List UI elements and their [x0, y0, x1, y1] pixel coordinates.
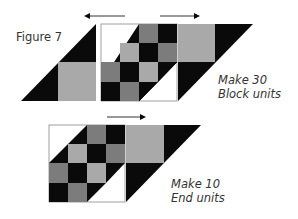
caption-line-2: Block units: [218, 87, 281, 101]
caption-line-1: Make 10: [171, 177, 225, 191]
figure-title: Figure 7: [16, 30, 62, 44]
caption-line-2: End units: [171, 191, 225, 205]
arrow-left-icon: [84, 13, 125, 19]
end-unit-caption: Make 10 End units: [171, 177, 225, 205]
arrow-right-icon: [160, 13, 200, 19]
arrow-right-icon: [107, 114, 146, 120]
checker-square: [49, 125, 125, 202]
caption-line-1: Make 30: [218, 73, 281, 87]
block-unit-caption: Make 30 Block units: [218, 73, 281, 101]
checker-square: [101, 24, 177, 101]
